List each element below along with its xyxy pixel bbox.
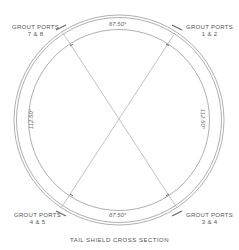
dimension-top: 67.50° [109,21,126,27]
port-marker-3-4 [172,211,182,216]
label-line: 7 & 8 [12,31,59,38]
label-line: 3 & 4 [186,219,233,226]
label-line: 1 & 2 [186,31,233,38]
dimension-left: 112.50° [28,109,34,129]
outer-ring-inner [17,18,222,223]
grout-ports-1-2-label: GROUT PORTS 1 & 2 [186,24,233,38]
label-line: GROUT PORTS [14,212,61,219]
port-marker-1-2 [172,25,182,30]
label-line: GROUT PORTS [186,24,233,31]
grout-ports-7-8-label: GROUT PORTS 7 & 8 [12,24,59,38]
dimension-bottom: 67.50° [109,212,126,218]
diagonal-line-1-2-to-4-5 [61,33,175,208]
label-line: GROUT PORTS [12,24,59,31]
drawing-title: TAIL SHIELD CROSS SECTION [0,237,239,243]
dimension-right: 112.50° [200,109,206,129]
grout-ports-4-5-label: GROUT PORTS 4 & 5 [14,212,61,226]
label-line: 4 & 5 [14,219,61,226]
diagonal-line-7-8-to-3-4 [63,33,177,208]
label-line: GROUT PORTS [186,212,233,219]
outer-ring-outer [14,15,224,225]
inner-circle [29,30,210,211]
grout-ports-3-4-label: GROUT PORTS 3 & 4 [186,212,233,226]
